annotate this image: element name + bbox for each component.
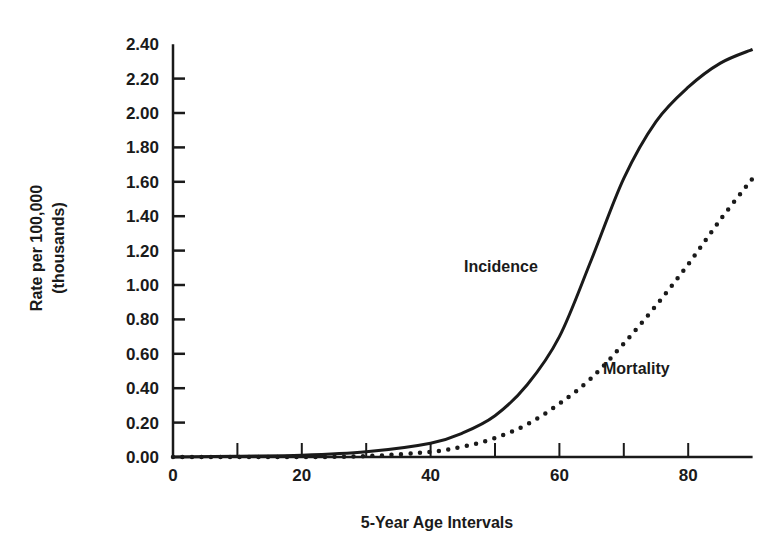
y-tick-label: 0.20: [126, 414, 159, 433]
series-group: [173, 49, 753, 457]
y-tick-label: 1.60: [126, 173, 159, 192]
y-tick-label: 1.80: [126, 138, 159, 157]
x-axis: 020406080: [168, 443, 752, 485]
y-axis-title: Rate per 100,000: [28, 185, 45, 311]
y-tick-label: 0.40: [126, 379, 159, 398]
mortality-label: Mortality: [603, 360, 670, 377]
y-axis-subtitle: (thousands): [50, 202, 67, 294]
labels-group: Incidence Mortality 5-Year Age Intervals…: [28, 185, 670, 531]
y-tick-label: 2.00: [126, 104, 159, 123]
y-tick-label: 2.40: [126, 35, 159, 54]
y-tick-label: 1.00: [126, 276, 159, 295]
y-tick-label: 0.00: [126, 448, 159, 467]
x-tick-label: 60: [550, 466, 569, 485]
y-tick-label: 2.20: [126, 70, 159, 89]
line-chart: 0.000.200.400.600.801.001.201.401.601.80…: [0, 0, 776, 554]
y-tick-label: 0.60: [126, 345, 159, 364]
incidence-label: Incidence: [464, 258, 538, 275]
x-axis-title: 5-Year Age Intervals: [361, 514, 513, 531]
y-axis: 0.000.200.400.600.801.001.201.401.601.80…: [126, 35, 185, 467]
x-tick-label: 40: [421, 466, 440, 485]
y-tick-label: 1.20: [126, 242, 159, 261]
mortality-curve: [173, 178, 753, 457]
x-tick-label: 20: [292, 466, 311, 485]
x-tick-label: 0: [168, 466, 177, 485]
y-tick-label: 0.80: [126, 310, 159, 329]
y-tick-label: 1.40: [126, 207, 159, 226]
x-tick-label: 80: [679, 466, 698, 485]
incidence-curve: [173, 49, 753, 457]
